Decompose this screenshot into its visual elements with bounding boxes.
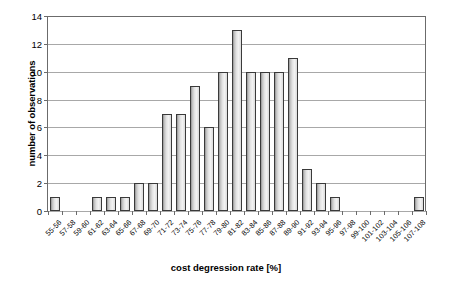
bar-slot <box>412 16 426 211</box>
bar-slot <box>188 16 202 211</box>
bar-77-78 <box>204 127 215 211</box>
x-axis-title: cost degression rate [%] <box>0 262 452 273</box>
bar-slot <box>216 16 230 211</box>
x-axis-tick-labels: 55-5657-5859-6061-6263-6465-6667-6869-70… <box>47 218 426 260</box>
bar-slot <box>62 16 76 211</box>
histogram-figure: number of observations 02468101214 55-56… <box>0 0 452 285</box>
bar-slot <box>48 16 62 211</box>
bar-slot <box>202 16 216 211</box>
bar-slot <box>370 16 384 211</box>
bar-55-56 <box>50 197 61 211</box>
bar-slot <box>300 16 314 211</box>
bar-slot <box>286 16 300 211</box>
bar-slot <box>244 16 258 211</box>
bar-89-90 <box>288 58 299 211</box>
bar-81-82 <box>232 30 243 211</box>
bar-slot <box>328 16 342 211</box>
bar-83-84 <box>246 72 257 211</box>
y-tick-label-4: 4 <box>37 150 42 161</box>
bar-slot <box>90 16 104 211</box>
bar-slot <box>342 16 356 211</box>
bar-slot <box>146 16 160 211</box>
bar-87-88 <box>274 72 285 211</box>
y-tick-label-8: 8 <box>37 94 42 105</box>
bar-73-74 <box>176 114 187 212</box>
y-tick-label-2: 2 <box>37 178 42 189</box>
bar-slot <box>160 16 174 211</box>
bar-slot <box>398 16 412 211</box>
bar-slot <box>132 16 146 211</box>
y-tick-label-6: 6 <box>37 122 42 133</box>
bar-series <box>48 16 426 211</box>
bar-slot <box>384 16 398 211</box>
bar-slot <box>174 16 188 211</box>
y-tick-label-0: 0 <box>37 206 42 217</box>
bar-85-86 <box>260 72 271 211</box>
bar-79-80 <box>218 72 229 211</box>
x-tick-mark-0 <box>48 211 49 215</box>
bar-slot <box>104 16 118 211</box>
bar-slot <box>272 16 286 211</box>
bar-slot <box>314 16 328 211</box>
bar-slot <box>118 16 132 211</box>
y-axis-title: number of observations <box>26 14 37 214</box>
bar-slot <box>356 16 370 211</box>
bar-75-76 <box>190 86 201 211</box>
bar-slot <box>76 16 90 211</box>
bar-71-72 <box>162 114 173 212</box>
bar-slot <box>230 16 244 211</box>
bar-slot <box>258 16 272 211</box>
plot-area: 02468101214 <box>47 16 426 212</box>
